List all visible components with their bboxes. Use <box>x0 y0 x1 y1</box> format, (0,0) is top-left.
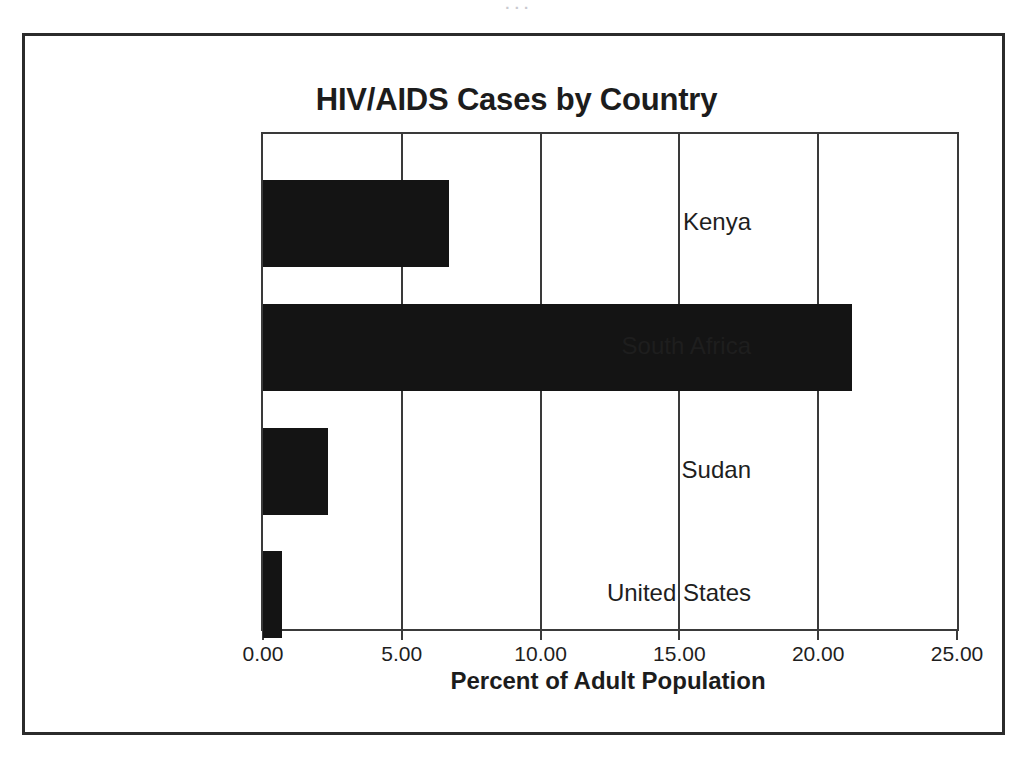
x-axis-tick-label: 25.00 <box>907 642 1007 666</box>
x-axis-tick-label: 15.00 <box>629 642 729 666</box>
x-axis-tick-label: 5.00 <box>352 642 452 666</box>
category-label-kenya: Kenya <box>683 208 766 236</box>
x-axis-tick <box>401 631 403 640</box>
x-axis-tick <box>678 631 680 640</box>
chart-title: HIV/AIDS Cases by Country <box>25 82 1008 118</box>
bar-united-states <box>263 551 282 638</box>
x-axis-tick <box>956 631 958 640</box>
category-label-united-states: United States <box>607 579 766 607</box>
x-axis-title: Percent of Adult Population <box>261 667 955 695</box>
plot-area: 0.005.0010.0015.0020.0025.00 <box>261 132 959 631</box>
x-axis-tick-label: 10.00 <box>491 642 591 666</box>
x-axis-tick <box>817 631 819 640</box>
chart-figure-frame: HIV/AIDS Cases by Country 0.005.0010.001… <box>22 33 1005 735</box>
bar-sudan <box>263 428 328 515</box>
bar-kenya <box>263 180 449 267</box>
clipped-text-artifact: . . . <box>0 0 1034 14</box>
category-label-sudan: Sudan <box>682 456 766 484</box>
x-axis-tick-label: 0.00 <box>213 642 313 666</box>
category-label-south-africa: South Africa <box>622 332 766 360</box>
x-axis-tick <box>540 631 542 640</box>
x-axis-tick-label: 20.00 <box>768 642 868 666</box>
